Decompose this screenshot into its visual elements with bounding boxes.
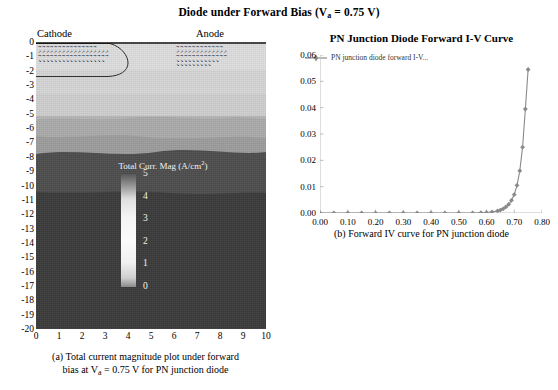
iv-data-point-marker xyxy=(442,211,447,213)
colorbar-tick: 0 xyxy=(143,281,148,291)
left-plot-x-tick: 1 xyxy=(57,331,62,341)
colorbar-tick: 3 xyxy=(143,213,148,223)
left-plot-y-tick: -12 xyxy=(0,209,34,219)
figure-title-tail: = 0.75 V) xyxy=(331,6,379,18)
right-panel-iv-chart: PN Junction Diode Forward I-V Curve PN j… xyxy=(285,28,558,390)
left-plot-y-tick: -10 xyxy=(0,181,34,191)
left-plot-y-tick: -20 xyxy=(0,324,34,334)
iv-data-point-marker xyxy=(520,145,525,150)
iv-data-point-marker xyxy=(515,183,520,188)
left-panel-contour-figure: Cathode Anode →→→→→→→→→→→→→→→ ↗↗↗↗↗↗↗↗↗↗… xyxy=(0,28,285,390)
left-plot-x-tick: 4 xyxy=(126,331,131,341)
iv-y-tick-label: 0.04 xyxy=(286,103,316,113)
left-plot-y-tick: -3 xyxy=(0,80,34,90)
left-plot-y-tick: -14 xyxy=(0,238,34,248)
colorbar-title: Total Curr. Mag (A/cm2) xyxy=(100,159,226,171)
iv-axis-lines xyxy=(320,55,542,213)
iv-data-point-marker xyxy=(387,211,392,213)
iv-data-point-marker xyxy=(470,211,475,213)
cathode-label: Cathode xyxy=(37,28,72,39)
iv-plot-area[interactable]: 0.000.010.020.030.040.050.06 0.000.100.2… xyxy=(320,55,542,213)
colorbar-tick: 4 xyxy=(143,191,148,201)
iv-data-point-marker xyxy=(490,210,495,213)
left-plot-x-tick: 5 xyxy=(149,331,154,341)
caption-a-line2-pre: bias at V xyxy=(63,364,98,375)
colorbar-tick: 2 xyxy=(143,236,148,246)
left-plot-x-tick: 10 xyxy=(261,331,271,341)
anode-label: Anode xyxy=(196,28,224,39)
iv-data-point-marker xyxy=(415,211,420,213)
iv-x-tick-label: 0.50 xyxy=(451,217,467,227)
iv-data-point-marker xyxy=(401,211,406,213)
iv-x-tick-label: 0.80 xyxy=(534,217,550,227)
left-plot-y-tick: -5 xyxy=(0,109,34,119)
colorbar-tick: 1 xyxy=(143,258,148,268)
quiver-field-cathode: →→→→→→→→→→→→→→→ ↗↗↗↗↗↗↗↗↗↗↗↗↗↗↗↗↗↗ →→→→→… xyxy=(38,45,109,63)
caption-a-line2-post: = 0.75 V for PN junction diode xyxy=(102,364,229,375)
left-plot-y-tick: -8 xyxy=(0,152,34,162)
left-plot-x-tick: 3 xyxy=(103,331,108,341)
colorbar-tick: 5 xyxy=(143,168,148,178)
iv-x-tick-label: 0.30 xyxy=(395,217,411,227)
figure-title-main: Diode under Forward Bias (V xyxy=(178,6,327,18)
iv-data-point-marker xyxy=(373,211,378,213)
iv-data-point-marker xyxy=(523,107,528,112)
iv-x-tick-label: 0.10 xyxy=(340,217,356,227)
iv-data-point-marker xyxy=(484,210,489,213)
left-plot-y-tick: -19 xyxy=(0,310,34,320)
caption-b: (b) Forward IV curve for PN junction dio… xyxy=(285,228,558,239)
iv-y-tick-label: 0.05 xyxy=(286,76,316,86)
iv-curve-line xyxy=(320,69,528,213)
iv-y-tick-label: 0.03 xyxy=(286,129,316,139)
quiver-field-anode: →→→→→→→→→→→→ ↗↗↗↗↗↗↗↗↗↗↗↗↗ →→→→→→→→→→→→→… xyxy=(176,45,227,68)
colorbar: Total Curr. Mag (A/cm2) 543210 xyxy=(103,159,223,319)
left-plot-y-tick: -13 xyxy=(0,224,34,234)
left-plot-x-tick: 7 xyxy=(195,331,200,341)
iv-x-tick-label: 0.00 xyxy=(312,217,328,227)
left-plot-x-tick: 2 xyxy=(80,331,85,341)
iv-data-point-marker xyxy=(345,211,350,213)
iv-x-tick-label: 0.40 xyxy=(423,217,439,227)
left-plot-x-tick: 6 xyxy=(172,331,177,341)
iv-data-point-marker xyxy=(526,67,531,72)
figure-title: Diode under Forward Bias (Va = 0.75 V) xyxy=(0,6,558,20)
iv-data-point-marker xyxy=(517,168,522,173)
iv-data-point-marker xyxy=(456,211,461,213)
iv-x-tick-label: 0.60 xyxy=(479,217,495,227)
left-plot-y-tick: -18 xyxy=(0,295,34,305)
iv-y-tick-label: 0.02 xyxy=(286,155,316,165)
iv-x-tick-label: 0.70 xyxy=(506,217,522,227)
iv-data-point-marker xyxy=(359,211,364,213)
left-plot-y-tick: -7 xyxy=(0,137,34,147)
caption-a: (a) Total current magnitude plot under f… xyxy=(8,350,283,379)
left-plot-y-tick: -2 xyxy=(0,66,34,76)
iv-data-point-marker xyxy=(331,211,336,213)
iv-chart-title: PN Junction Diode Forward I-V Curve xyxy=(285,32,558,44)
left-plot-y-tick: -11 xyxy=(0,195,34,205)
left-plot-y-tick: -16 xyxy=(0,267,34,277)
iv-x-tick-label: 0.20 xyxy=(368,217,384,227)
colorbar-title-text: Total Curr. Mag (A/cm xyxy=(118,161,201,171)
left-plot-x-tick: 9 xyxy=(241,331,246,341)
left-plot-y-tick: 0 xyxy=(0,37,34,47)
left-plot-x-tick: 8 xyxy=(218,331,223,341)
caption-a-line1: (a) Total current magnitude plot under f… xyxy=(52,351,239,362)
iv-data-point-marker xyxy=(512,192,517,197)
left-plot-y-tick: -17 xyxy=(0,281,34,291)
iv-y-tick-label: 0.06 xyxy=(286,50,316,60)
colorbar-title-close: ) xyxy=(205,161,208,171)
iv-data-point-marker xyxy=(429,211,434,213)
left-plot-y-tick: -15 xyxy=(0,252,34,262)
left-plot-y-tick: -6 xyxy=(0,123,34,133)
left-plot-y-tick: -1 xyxy=(0,51,34,61)
left-plot-x-axis-labels: 012345678910 xyxy=(36,331,266,345)
left-plot-x-tick: 0 xyxy=(34,331,39,341)
left-plot-y-tick: -4 xyxy=(0,94,34,104)
left-plot-y-axis-labels: 0-1-2-3-4-5-6-7-8-9-10-11-12-13-14-15-16… xyxy=(0,42,34,329)
iv-data-point-marker xyxy=(479,210,484,213)
iv-curve-svg xyxy=(320,55,542,213)
left-plot-y-tick: -9 xyxy=(0,166,34,176)
iv-y-tick-label: 0.01 xyxy=(286,182,316,192)
colorbar-gradient xyxy=(121,174,136,287)
